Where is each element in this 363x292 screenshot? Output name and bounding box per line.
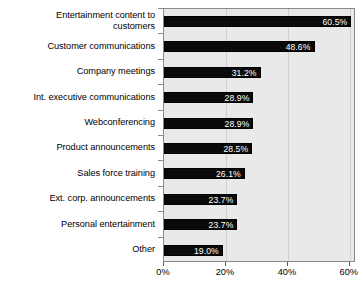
category-label-row: Other [0, 237, 155, 262]
category-label-row: Personal entertainment [0, 211, 155, 236]
bar-value-label: 26.1% [216, 169, 241, 180]
bar-value-label: 28.9% [225, 119, 250, 130]
category-axis: Entertainment content to customersCustom… [0, 8, 158, 262]
x-tick-label: 40% [278, 267, 296, 278]
category-label: Personal entertainment [61, 219, 155, 230]
bar-row: 28.9% [164, 85, 354, 110]
bar-row: 31.2% [164, 60, 354, 85]
category-label-row: Company meetings [0, 59, 155, 84]
category-label-row: Entertainment content to customers [0, 8, 155, 33]
bar-value-label: 28.5% [223, 144, 248, 155]
bar: 48.6% [164, 41, 315, 52]
category-label: Other [132, 244, 155, 255]
category-label: Webconferencing [84, 117, 155, 128]
bar-value-label: 23.7% [209, 220, 234, 231]
x-tick-label: 20% [216, 267, 234, 278]
bar-row: 23.7% [164, 212, 354, 237]
x-tick [225, 262, 226, 266]
category-label-row: Product announcements [0, 135, 155, 160]
category-label: Int. executive communications [33, 92, 155, 103]
category-label-row: Customer communications [0, 33, 155, 58]
bar-row: 28.5% [164, 136, 354, 161]
category-label-row: Ext. corp. announcements [0, 186, 155, 211]
category-label-row: Sales force training [0, 160, 155, 185]
x-tick-label: 60% [340, 267, 358, 278]
x-axis: 0%20%40%60% [163, 262, 355, 288]
category-label-row: Int. executive communications [0, 84, 155, 109]
x-tick [287, 262, 288, 266]
category-label: Customer communications [47, 41, 155, 52]
bar-value-label: 31.2% [232, 68, 257, 79]
bar-row: 26.1% [164, 161, 354, 186]
category-label: Product announcements [56, 142, 155, 153]
bar: 19.0% [164, 245, 223, 256]
bar: 28.9% [164, 92, 253, 103]
bar: 28.9% [164, 118, 253, 129]
bar: 28.5% [164, 143, 252, 154]
category-label: Ext. corp. announcements [49, 193, 155, 204]
category-label: Sales force training [77, 168, 155, 179]
bar: 26.1% [164, 168, 245, 179]
bar: 23.7% [164, 219, 237, 230]
category-label-row: Webconferencing [0, 110, 155, 135]
plot-area: 60.5%48.6%31.2%28.9%28.9%28.5%26.1%23.7%… [163, 8, 355, 262]
x-tick-label: 0% [156, 267, 169, 278]
bar-value-label: 28.9% [225, 93, 250, 104]
bar-value-label: 23.7% [209, 195, 234, 206]
bar-row: 19.0% [164, 238, 354, 262]
bar: 60.5% [164, 16, 351, 27]
bar-value-label: 48.6% [286, 42, 311, 53]
bar-row: 48.6% [164, 34, 354, 59]
category-label: Company meetings [77, 66, 155, 77]
x-tick [349, 262, 350, 266]
bar-row: 28.9% [164, 111, 354, 136]
bar: 23.7% [164, 194, 237, 205]
bar-row: 60.5% [164, 9, 354, 34]
bar: 31.2% [164, 67, 261, 78]
bar-value-label: 60.5% [322, 17, 347, 28]
bar-value-label: 19.0% [194, 246, 219, 257]
x-tick [163, 262, 164, 266]
bar-row: 23.7% [164, 187, 354, 212]
bar-chart-figure: Entertainment content to customersCustom… [0, 0, 363, 292]
category-label: Entertainment content to customers [56, 10, 155, 31]
